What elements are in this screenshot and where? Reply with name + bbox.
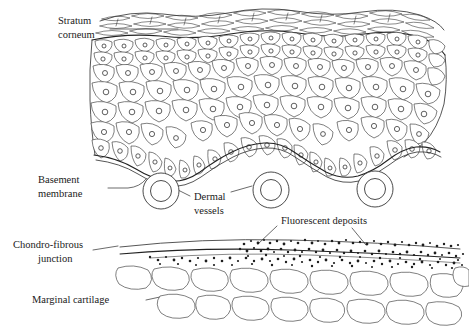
label-stratum-corneum: Stratum <box>58 15 91 26</box>
fluorescent-deposits <box>149 239 464 269</box>
dermal-vessel <box>143 173 179 209</box>
label-stratum-corneum-line2: corneum <box>58 29 95 40</box>
epidermis-layer <box>90 32 447 186</box>
epidermis-basal-cells <box>92 136 436 179</box>
leader-chondro-fibrous <box>93 246 118 250</box>
label-dermal-vessels: Dermal <box>194 191 226 202</box>
histology-figure: Stratum corneum Basement membrane Dermal… <box>0 0 469 335</box>
label-basement-membrane: Basement <box>38 174 79 185</box>
leader-dermal-vessels-right <box>231 186 252 192</box>
leader-fluorescent-deposits-left <box>258 226 277 244</box>
label-dermal-vessels-line2: vessels <box>194 205 224 216</box>
epidermis-fifth-row <box>91 95 437 124</box>
chondro-fibrous-junction <box>120 240 460 263</box>
label-chondro-fibrous-junction: Chondro-fibrous <box>13 239 83 250</box>
label-fluorescent-deposits: Fluorescent deposits <box>281 215 367 226</box>
label-marginal-cartilage: Marginal cartilage <box>32 294 109 305</box>
leader-dermal-vessels-left <box>178 190 190 196</box>
dermal-vessel <box>357 171 393 207</box>
marginal-cartilage-cells <box>116 266 469 325</box>
label-chondro-fibrous-junction-line2: junction <box>37 253 73 264</box>
label-basement-membrane-line2: membrane <box>38 188 83 199</box>
leader-basement-membrane <box>108 179 146 188</box>
dermal-vessel <box>253 172 289 208</box>
